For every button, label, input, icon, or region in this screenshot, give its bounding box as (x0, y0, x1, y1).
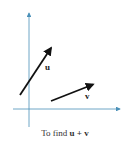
caption-math: u + v (70, 128, 89, 138)
vector-diagram: u v (0, 0, 130, 147)
label-v: v (85, 91, 90, 101)
label-u: u (45, 62, 50, 72)
caption-text: To find (41, 128, 69, 138)
caption: To find u + v (0, 128, 130, 138)
